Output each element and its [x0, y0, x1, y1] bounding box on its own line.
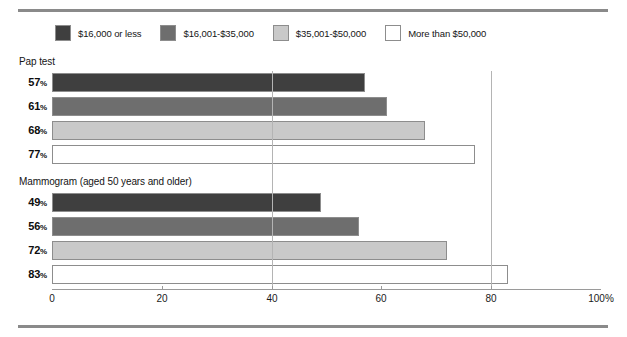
- bar-value-percent-sign: %: [40, 199, 47, 208]
- bar: [52, 241, 447, 260]
- bar-row: 57%: [52, 73, 365, 92]
- bar: [52, 217, 359, 236]
- bar: [52, 97, 387, 116]
- bar-value-percent-sign: %: [40, 127, 47, 136]
- x-axis-tick-mark: [162, 286, 163, 290]
- plot-area: Pap test57%61%68%77%Mammogram (aged 50 y…: [0, 0, 627, 337]
- x-axis-tick-mark: [491, 286, 492, 290]
- bar-value-number: 68: [28, 124, 40, 136]
- bar-value-label: 61%: [28, 97, 47, 116]
- bar-value-label: 68%: [28, 121, 47, 140]
- bar-row: 72%: [52, 241, 447, 260]
- bar-value-number: 72: [28, 244, 40, 256]
- gridline: [491, 71, 492, 289]
- bar-value-percent-sign: %: [40, 151, 47, 160]
- bar-value-number: 61: [28, 100, 40, 112]
- bar-value-percent-sign: %: [40, 79, 47, 88]
- bar-row: 77%: [52, 145, 475, 164]
- bar-value-number: 49: [28, 196, 40, 208]
- x-axis-tick-label: 80: [485, 293, 496, 304]
- bar-value-label: 49%: [28, 193, 47, 212]
- bar: [52, 265, 508, 284]
- x-axis-tick-mark: [272, 286, 273, 290]
- bar-value-percent-sign: %: [40, 247, 47, 256]
- group-title: Mammogram (aged 50 years and older): [19, 176, 192, 187]
- bar-value-number: 77: [28, 148, 40, 160]
- x-axis-line: [52, 289, 601, 290]
- bar-value-percent-sign: %: [40, 271, 47, 280]
- x-axis-tick-mark: [381, 286, 382, 290]
- bar-value-label: 57%: [28, 73, 47, 92]
- bar-value-label: 77%: [28, 145, 47, 164]
- bar-value-percent-sign: %: [40, 103, 47, 112]
- bar-value-label: 72%: [28, 241, 47, 260]
- bar: [52, 121, 425, 140]
- x-axis-tick-label: 20: [156, 293, 167, 304]
- bar-row: 56%: [52, 217, 359, 236]
- bar: [52, 73, 365, 92]
- x-axis-tick-label: 0: [49, 293, 55, 304]
- x-axis-tick-label: 100%: [588, 293, 614, 304]
- bar-row: 49%: [52, 193, 321, 212]
- bar-row: 61%: [52, 97, 387, 116]
- bar-row: 68%: [52, 121, 425, 140]
- bar: [52, 145, 475, 164]
- bar-row: 83%: [52, 265, 508, 284]
- group-title: Pap test: [19, 56, 55, 67]
- bar-value-number: 83: [28, 268, 40, 280]
- bar-value-number: 57: [28, 76, 40, 88]
- x-axis-tick-label: 40: [266, 293, 277, 304]
- x-axis-tick-label: 60: [375, 293, 386, 304]
- bar-value-label: 83%: [28, 265, 47, 284]
- bar-value-number: 56: [28, 220, 40, 232]
- chart-figure: $16,000 or less$16,001-$35,000$35,001-$5…: [0, 0, 627, 337]
- gridline: [272, 71, 273, 289]
- bar: [52, 193, 321, 212]
- bar-value-percent-sign: %: [40, 223, 47, 232]
- bar-value-label: 56%: [28, 217, 47, 236]
